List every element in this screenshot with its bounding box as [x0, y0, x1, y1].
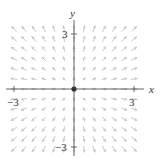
- field-arrow: [121, 57, 127, 60]
- field-arrow: [93, 26, 95, 32]
- field-arrow: [22, 146, 26, 151]
- field-arrow: [84, 26, 85, 33]
- field-arrow: [122, 26, 126, 31]
- field-arrow: [11, 37, 16, 41]
- field-arrow: [21, 117, 27, 120]
- field-arrow: [83, 67, 85, 71]
- field-arrow: [32, 127, 37, 132]
- field-arrow: [52, 67, 55, 70]
- field-arrow: [102, 136, 105, 142]
- field-arrow: [121, 117, 127, 120]
- field-arrow: [132, 27, 137, 32]
- field-arrow: [53, 26, 55, 32]
- field-arrow: [42, 136, 45, 142]
- field-arrow: [53, 47, 56, 52]
- field-arrow: [21, 98, 27, 99]
- y-tick-label-3: 3: [62, 28, 68, 40]
- field-arrow: [22, 26, 26, 31]
- field-arrow: [102, 98, 107, 100]
- field-arrow: [53, 36, 55, 42]
- field-arrow: [12, 147, 17, 152]
- field-arrow: [92, 98, 96, 100]
- field-arrow: [112, 47, 117, 52]
- field-arrow: [93, 117, 96, 121]
- field-arrow: [11, 79, 18, 80]
- field-arrow: [102, 26, 105, 32]
- field-arrow: [83, 36, 84, 42]
- y-tick-label-neg3: −3: [55, 141, 67, 153]
- field-arrow: [53, 127, 56, 132]
- field-arrow: [11, 127, 17, 131]
- field-arrow: [63, 67, 65, 71]
- field-arrow: [42, 108, 46, 111]
- field-arrow: [111, 78, 116, 79]
- field-arrow: [11, 117, 17, 120]
- field-arrow: [32, 117, 37, 121]
- field-arrow: [11, 137, 16, 141]
- field-arrow: [121, 78, 127, 79]
- field-arrow: [111, 98, 116, 99]
- field-arrow: [84, 146, 85, 153]
- field-arrow: [32, 26, 36, 32]
- field-arrow: [42, 26, 45, 32]
- field-arrow: [121, 127, 126, 131]
- field-arrow: [32, 68, 37, 71]
- field-arrow: [42, 78, 47, 80]
- field-arrow: [42, 36, 45, 42]
- field-arrow: [32, 108, 37, 111]
- field-arrow: [102, 108, 106, 111]
- x-axis-label: x: [148, 83, 154, 95]
- field-arrow: [32, 146, 36, 152]
- x-tick-label-neg3: −3: [7, 96, 19, 108]
- field-arrow: [63, 117, 65, 122]
- field-arrow: [42, 146, 45, 152]
- field-arrow: [83, 46, 84, 51]
- field-arrow: [52, 107, 55, 110]
- field-arrow: [83, 117, 85, 122]
- field-arrow: [52, 78, 56, 80]
- field-arrow: [21, 57, 27, 60]
- field-arrow: [92, 78, 96, 80]
- field-arrow: [102, 127, 106, 132]
- field-arrow: [132, 147, 137, 152]
- field-arrow: [102, 47, 106, 52]
- field-arrow: [42, 117, 46, 121]
- field-arrow: [112, 127, 117, 132]
- field-arrow: [63, 57, 65, 62]
- field-arrow: [53, 57, 56, 61]
- field-arrow: [122, 37, 127, 42]
- field-arrow: [11, 108, 17, 110]
- field-arrow: [31, 98, 36, 99]
- field-arrow: [102, 146, 105, 152]
- field-arrow: [63, 98, 66, 101]
- field-arrow: [92, 67, 95, 70]
- field-arrow: [121, 98, 127, 99]
- field-arrow: [102, 57, 106, 61]
- field-arrow: [21, 68, 27, 70]
- field-arrow: [32, 47, 37, 52]
- field-arrow: [112, 108, 117, 111]
- field-arrow: [42, 98, 47, 100]
- field-arrow: [93, 36, 95, 42]
- vector-field-plot: x y −3 3 3 −3: [0, 0, 165, 160]
- field-arrow: [83, 126, 84, 131]
- field-arrow: [102, 36, 105, 42]
- field-arrow: [112, 136, 116, 141]
- field-arrow: [11, 57, 17, 60]
- field-arrow: [32, 57, 37, 61]
- field-arrow: [122, 146, 126, 151]
- field-arrow: [22, 137, 27, 142]
- field-arrow: [112, 146, 116, 152]
- field-arrow: [112, 36, 116, 41]
- field-arrow: [93, 47, 96, 52]
- field-arrow: [131, 117, 137, 120]
- field-arrow: [83, 107, 85, 111]
- field-arrow: [131, 68, 137, 70]
- field-arrow: [131, 127, 137, 131]
- field-arrow: [12, 27, 17, 32]
- field-arrow: [42, 68, 46, 71]
- field-arrow: [93, 146, 95, 152]
- field-arrow: [112, 117, 117, 121]
- field-arrow: [11, 47, 17, 51]
- field-arrow: [121, 68, 127, 70]
